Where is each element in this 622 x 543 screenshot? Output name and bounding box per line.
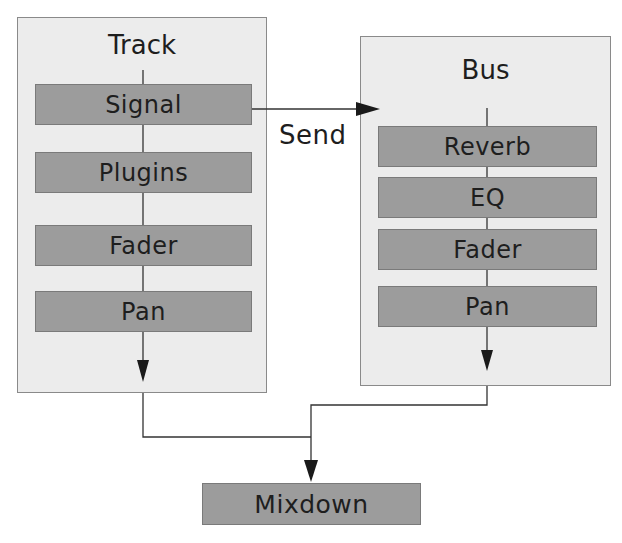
bus-node-pan[interactable]: Pan: [378, 286, 597, 327]
track-node-pan[interactable]: Pan: [35, 291, 252, 332]
track-node-fader[interactable]: Fader: [35, 225, 252, 266]
arrow-down-icon: [304, 460, 318, 482]
connector-lines: [0, 0, 622, 543]
track-node-signal[interactable]: Signal: [35, 84, 252, 125]
arrow-down-icon: [137, 360, 149, 382]
mixdown-node[interactable]: Mixdown: [202, 483, 421, 525]
arrow-down-icon: [481, 350, 493, 371]
bus-node-reverb[interactable]: Reverb: [378, 126, 597, 167]
bus-node-fader[interactable]: Fader: [378, 229, 597, 270]
arrow-right-icon: [356, 102, 380, 116]
bus-node-eq[interactable]: EQ: [378, 177, 597, 218]
track-node-plugins[interactable]: Plugins: [35, 152, 252, 193]
send-label: Send: [279, 120, 346, 150]
